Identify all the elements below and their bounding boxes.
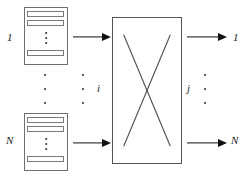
input-index-label-i: i <box>97 83 100 94</box>
input-queue-1 <box>24 7 68 65</box>
queue-bar <box>27 20 64 26</box>
queue-bar <box>27 126 64 132</box>
queue-bar <box>27 50 64 56</box>
output-index-ellipsis-icon <box>203 74 207 104</box>
input-queues-ellipsis-icon <box>43 74 47 104</box>
output-label-N: N <box>231 135 238 146</box>
input-queue-N <box>24 113 68 171</box>
input-label-1: 1 <box>7 32 13 43</box>
arrow-input-N-to-fabric <box>73 138 111 147</box>
diagram-canvas: 1 N <box>0 0 250 177</box>
output-index-label-j: j <box>187 83 190 94</box>
switch-fabric <box>112 17 182 164</box>
input-index-ellipsis-icon <box>81 74 85 104</box>
arrow-fabric-to-output-N <box>187 138 229 147</box>
queue-ellipsis-icon <box>45 32 47 44</box>
queue-bar <box>27 11 64 17</box>
arrow-input-1-to-fabric <box>73 32 111 41</box>
queue-bar <box>27 117 64 123</box>
queue-ellipsis-icon <box>45 138 47 150</box>
queue-bar <box>27 156 64 162</box>
input-queue-N-contents <box>25 114 67 170</box>
arrow-fabric-to-output-1 <box>187 32 229 41</box>
output-label-1: 1 <box>233 32 239 43</box>
input-label-N: N <box>6 135 13 146</box>
input-queue-1-contents <box>25 8 67 64</box>
crossbar-x-icon <box>113 18 181 163</box>
